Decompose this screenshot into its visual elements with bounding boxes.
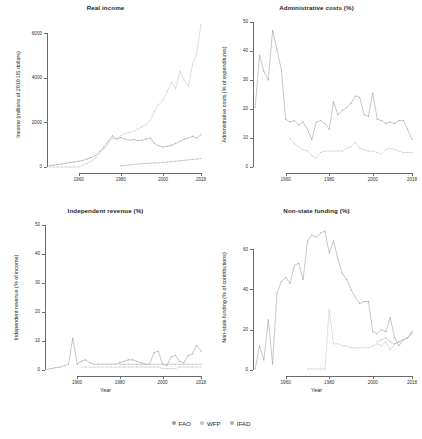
- plot-area: 02000400060001960198020002018: [47, 22, 201, 167]
- series-point: [368, 151, 369, 152]
- series-point: [201, 364, 202, 365]
- y-tick-label: 60: [225, 247, 248, 252]
- series-point: [108, 141, 109, 142]
- legend-label: FAO: [179, 420, 191, 427]
- series-point: [99, 151, 100, 152]
- series-point: [333, 151, 334, 152]
- series-point: [179, 71, 180, 72]
- series-point: [162, 364, 163, 365]
- series-point: [381, 329, 382, 330]
- y-tick-label: 50: [225, 19, 248, 24]
- series-point: [183, 367, 184, 368]
- series-point: [333, 241, 334, 242]
- series-point: [57, 167, 58, 168]
- plot-area: 02040601960198020002018: [253, 225, 412, 370]
- series-point: [403, 120, 404, 121]
- series-point: [337, 259, 338, 260]
- series-point: [355, 142, 356, 143]
- series-point: [381, 120, 382, 121]
- legend-label: WFP: [207, 420, 221, 427]
- legend-item-fao[interactable]: FAO: [172, 420, 191, 427]
- x-tick-mark: [286, 173, 287, 176]
- legend-item-ifad[interactable]: IFAD: [230, 420, 251, 427]
- series-point: [162, 368, 163, 369]
- series-point: [276, 293, 277, 294]
- y-tick-label: 50: [17, 222, 40, 227]
- series-point: [133, 139, 134, 140]
- series-point: [65, 167, 66, 168]
- series-point: [95, 155, 96, 156]
- x-tick-label: 1980: [106, 380, 134, 385]
- series-point: [385, 331, 386, 332]
- series-point: [179, 364, 180, 365]
- x-tick-label: 1960: [272, 177, 300, 182]
- legend-dot-icon: [172, 421, 176, 425]
- series-point: [179, 361, 180, 362]
- series-point: [290, 138, 291, 139]
- series-point: [192, 64, 193, 65]
- series-point: [167, 162, 168, 163]
- series-point: [91, 161, 92, 162]
- series-line-wfp: [290, 138, 412, 158]
- series-point: [364, 149, 365, 150]
- series-point: [81, 361, 82, 362]
- series-point: [111, 367, 112, 368]
- series-point: [119, 364, 120, 365]
- series-point: [146, 124, 147, 125]
- y-tick-label: 30: [225, 77, 248, 82]
- series-point: [136, 361, 137, 362]
- series-point: [158, 367, 159, 368]
- series-layer: [253, 225, 412, 370]
- series-point: [175, 355, 176, 356]
- series-point: [120, 137, 121, 138]
- series-point: [364, 301, 365, 302]
- series-point: [111, 364, 112, 365]
- series-line-fao: [255, 31, 412, 140]
- y-tick-label: 4000: [19, 75, 42, 80]
- x-tick-mark: [201, 376, 202, 379]
- series-point: [137, 140, 138, 141]
- series-point: [398, 151, 399, 152]
- series-point: [201, 24, 202, 25]
- series-point: [154, 162, 155, 163]
- series-point: [125, 139, 126, 140]
- x-tick-mark: [412, 173, 413, 176]
- x-tick-label: 2018: [398, 177, 422, 182]
- y-tick-label: 10: [225, 135, 248, 140]
- series-point: [132, 364, 133, 365]
- series-point: [141, 126, 142, 127]
- series-point: [98, 367, 99, 368]
- legend-item-wfp[interactable]: WFP: [200, 420, 221, 427]
- series-point: [281, 281, 282, 282]
- series-point: [132, 359, 133, 360]
- y-tick-label: 20: [17, 309, 40, 314]
- series-point: [403, 339, 404, 340]
- series-point: [276, 49, 277, 50]
- series-point: [407, 337, 408, 338]
- series-point: [53, 167, 54, 168]
- series-point: [166, 365, 167, 366]
- series-point: [196, 367, 197, 368]
- series-point: [390, 349, 391, 350]
- y-axis-label: Income (millions of 2010 US dollars): [15, 22, 21, 167]
- series-point: [95, 158, 96, 159]
- figure-legend: FAOWFPIFAD: [0, 414, 422, 432]
- series-point: [188, 367, 189, 368]
- series-point: [390, 341, 391, 342]
- series-point: [55, 367, 56, 368]
- x-tick-mark: [286, 376, 287, 379]
- series-point: [99, 153, 100, 154]
- series-point: [192, 364, 193, 365]
- series-point: [346, 107, 347, 108]
- chart-title: Real income: [0, 4, 211, 11]
- series-point: [196, 53, 197, 54]
- series-point: [158, 162, 159, 163]
- y-tick-label: 6000: [19, 31, 42, 36]
- series-point: [316, 237, 317, 238]
- series-point: [377, 152, 378, 153]
- series-point: [294, 143, 295, 144]
- series-point: [333, 343, 334, 344]
- series-point: [153, 352, 154, 353]
- series-point: [290, 283, 291, 284]
- chart-panel-3: Independent revenue (%)01020304050196019…: [0, 207, 211, 414]
